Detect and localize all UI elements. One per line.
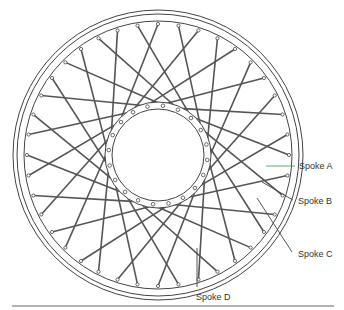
wheel-diagram: [0, 0, 344, 310]
label-spoke-c: Spoke C: [298, 249, 333, 259]
hub: [105, 102, 211, 208]
label-spoke-a: Spoke A: [299, 161, 333, 171]
label-spoke-d: Spoke D: [196, 292, 231, 302]
label-spoke-b: Spoke B: [298, 196, 332, 206]
